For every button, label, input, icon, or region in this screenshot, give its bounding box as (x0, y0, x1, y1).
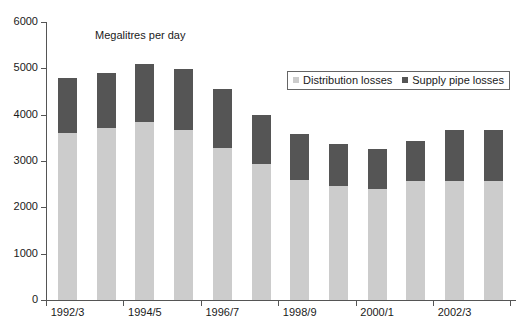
y-axis-tick-mark (41, 22, 46, 23)
bar-1999-0 (329, 144, 348, 300)
x-axis-tick-mark (278, 301, 279, 306)
bar-segment-distribution-losses (368, 189, 387, 300)
bar-segment-supply-pipe-losses (252, 115, 271, 165)
legend-swatch-icon-supply-pipe (402, 77, 408, 83)
y-axis-tick-label: 3000 (14, 153, 38, 168)
bar-2003-4 (484, 130, 503, 300)
bar-1996-7 (213, 89, 232, 300)
bar-segment-supply-pipe-losses (135, 64, 154, 122)
x-axis-tick-label: 1996/7 (205, 305, 239, 319)
bar-2002-3 (445, 130, 464, 301)
bar-2000-1 (368, 149, 387, 300)
legend-label-distribution: Distribution losses (303, 74, 392, 86)
bar-1993-4 (97, 73, 116, 300)
bar-segment-distribution-losses (252, 164, 271, 300)
bar-segment-distribution-losses (174, 130, 193, 301)
legend-item-supply-pipe-losses: Supply pipe losses (402, 74, 504, 86)
bar-segment-distribution-losses (484, 181, 503, 300)
bar-2001-2 (406, 141, 425, 300)
bar-1995-6 (174, 69, 193, 300)
x-axis-tick-mark (123, 301, 124, 306)
legend-item-distribution-losses: Distribution losses (293, 74, 392, 86)
bar-1998-9 (290, 134, 309, 300)
y-axis-tick-mark (41, 207, 46, 208)
bar-segment-supply-pipe-losses (329, 144, 348, 185)
bar-segment-distribution-losses (329, 186, 348, 300)
plot-area (46, 22, 516, 300)
legend-label-supply-pipe: Supply pipe losses (412, 74, 504, 86)
x-axis-tick-mark (510, 301, 511, 306)
bar-segment-distribution-losses (58, 133, 77, 300)
y-axis-tick-label: 5000 (14, 60, 38, 75)
y-axis-tick-label: 1000 (14, 246, 38, 261)
bar-segment-supply-pipe-losses (97, 73, 116, 128)
y-axis-tick-mark (41, 161, 46, 162)
y-axis-tick-mark (41, 254, 46, 255)
bar-segment-supply-pipe-losses (368, 149, 387, 189)
x-axis-tick-mark (201, 301, 202, 306)
y-axis-tick-label: 0 (32, 292, 38, 307)
bar-segment-supply-pipe-losses (406, 141, 425, 182)
bar-segment-supply-pipe-losses (484, 130, 503, 181)
x-axis-tick-mark (46, 301, 47, 306)
x-axis-tick-label: 2000/1 (360, 305, 394, 319)
bar-1997-8 (252, 115, 271, 300)
y-axis-tick-label: 4000 (14, 107, 38, 122)
legend-swatch-icon-distribution (293, 77, 299, 83)
y-axis-tick-mark (41, 68, 46, 69)
bar-segment-supply-pipe-losses (445, 130, 464, 181)
bar-chart: Megalitres per day 010002000300040005000… (0, 0, 526, 334)
bar-segment-distribution-losses (406, 181, 425, 300)
y-axis-tick-mark (41, 115, 46, 116)
bar-segment-distribution-losses (135, 122, 154, 300)
bar-segment-distribution-losses (97, 128, 116, 300)
bar-segment-distribution-losses (445, 181, 464, 300)
bar-1994-5 (135, 64, 154, 300)
chart-legend: Distribution losses Supply pipe losses (287, 71, 510, 90)
bar-segment-supply-pipe-losses (58, 78, 77, 134)
x-axis-tick-label: 2002/3 (438, 305, 472, 319)
bar-segment-distribution-losses (290, 180, 309, 300)
x-axis-tick-mark (433, 301, 434, 306)
y-axis-tick-label: 6000 (14, 14, 38, 29)
bar-segment-distribution-losses (213, 148, 232, 300)
bar-segment-supply-pipe-losses (290, 134, 309, 181)
x-axis-tick-label: 1998/9 (283, 305, 317, 319)
x-axis-tick-mark (356, 301, 357, 306)
x-axis-tick-label: 1992/3 (51, 305, 85, 319)
x-axis-tick-label: 1994/5 (128, 305, 162, 319)
bar-segment-supply-pipe-losses (174, 69, 193, 130)
x-axis-line (46, 300, 516, 301)
bar-segment-supply-pipe-losses (213, 89, 232, 148)
y-axis-tick-label: 2000 (14, 199, 38, 214)
bar-1992-3 (58, 78, 77, 300)
